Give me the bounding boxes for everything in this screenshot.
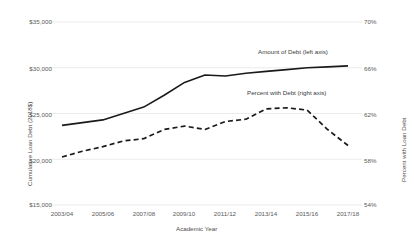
ytick-left-0: $35,000 (6, 18, 52, 25)
chart-container: $35,000 $30,000 $25,000 $20,000 $15,000 … (0, 0, 414, 243)
ytick-left-4: $15,000 (6, 201, 52, 208)
y-axis-title-left: Cumulative Loan Debt (2018$) (26, 102, 33, 186)
ytick-right-4: 54% (364, 201, 398, 208)
ytick-right-3: 58% (364, 157, 398, 164)
xtick-5: 2013/14 (245, 210, 287, 217)
ytick-right-0: 70% (364, 18, 398, 25)
xtick-4: 2011/12 (204, 210, 246, 217)
series-label-amount-of-debt: Amount of Debt (left axis) (258, 48, 328, 55)
xtick-2: 2007/08 (123, 210, 165, 217)
xtick-6: 2015/16 (286, 210, 328, 217)
series-label-percent-with-debt: Percent with Debt (right axis) (247, 89, 326, 96)
x-axis-title: Academic Year (176, 225, 217, 232)
xtick-1: 2005/06 (82, 210, 124, 217)
series-line-percent-with-debt (62, 108, 348, 157)
ytick-right-1: 66% (364, 65, 398, 72)
xtick-7: 2017/18 (327, 210, 369, 217)
xtick-3: 2009/10 (163, 210, 205, 217)
chart-plot-area (0, 0, 414, 243)
ytick-left-1: $30,000 (6, 65, 52, 72)
y-axis-title-right: Percent with Loan Debt (400, 118, 407, 182)
ytick-right-2: 62% (364, 111, 398, 118)
xtick-0: 2003/04 (41, 210, 83, 217)
